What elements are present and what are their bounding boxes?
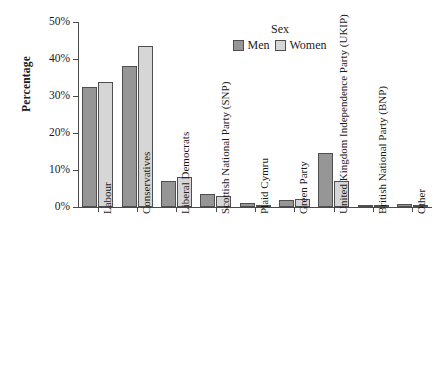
x-axis-tick-mark (373, 208, 374, 212)
y-axis-tick-label: 10% (26, 164, 70, 176)
x-axis-tick-mark (255, 208, 256, 212)
y-axis-title: Percentage (20, 24, 32, 144)
x-axis-tick-label: Scottish National Party (SNP) (220, 82, 231, 214)
x-axis-tick-label: Liberal Democrats (180, 132, 191, 214)
x-axis-tick-mark (137, 208, 138, 212)
legend-label: Men (247, 39, 269, 51)
y-axis-tick-label: 30% (26, 90, 70, 102)
x-axis-tick-label: Conservatives (141, 152, 152, 214)
legend: Sex MenWomen (190, 22, 370, 51)
y-axis-tick-label: 40% (26, 53, 70, 65)
bar-men (397, 204, 412, 207)
y-axis-tick-label: 50% (26, 16, 70, 28)
x-axis-tick-mark (412, 208, 413, 212)
x-axis-tick-label: Labour (102, 182, 113, 214)
legend-swatch-icon (233, 40, 244, 51)
x-axis-tick-label: Plaid Cymru (259, 158, 270, 214)
legend-swatch-icon (275, 40, 286, 51)
legend-title: Sex (190, 22, 370, 36)
y-axis-tick-label: 20% (26, 127, 70, 139)
x-axis-tick-mark (334, 208, 335, 212)
x-axis-tick-label: Other (416, 189, 427, 214)
y-axis-tick-label: 0% (26, 201, 70, 213)
x-axis-tick-mark (294, 208, 295, 212)
legend-item: Men (233, 39, 269, 51)
figure-caption (0, 385, 442, 391)
x-axis-tick-label: British National Party (BNP) (377, 86, 388, 214)
legend-item: Women (275, 39, 326, 51)
legend-items: MenWomen (190, 39, 370, 51)
x-axis-tick-mark (176, 208, 177, 212)
bar-chart-figure: Percentage 0%10%20%30%40%50% LabourConse… (0, 0, 442, 391)
x-axis-tick-mark (216, 208, 217, 212)
legend-label: Women (289, 39, 326, 51)
x-axis-tick-mark (98, 208, 99, 212)
x-axis-tick-label: Green Party (298, 161, 309, 214)
